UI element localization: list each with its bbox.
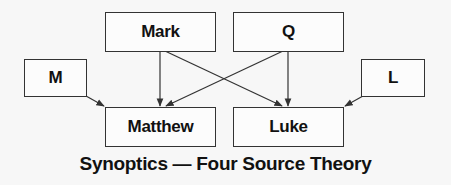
node-label: L <box>388 68 398 88</box>
node-m: M <box>24 59 87 97</box>
node-matthew: Matthew <box>105 107 216 147</box>
node-mark: Mark <box>105 12 216 52</box>
node-luke: Luke <box>233 107 344 147</box>
edge-m-matthew <box>86 96 104 106</box>
node-label: Q <box>282 22 295 42</box>
diagram-title: Synoptics — Four Source Theory <box>0 153 451 175</box>
node-q: Q <box>233 12 344 52</box>
node-label: Mark <box>141 22 180 42</box>
node-l: L <box>361 59 425 97</box>
edge-l-luke <box>345 96 363 106</box>
node-label: Matthew <box>128 117 194 137</box>
node-label: Luke <box>269 117 307 137</box>
node-label: M <box>49 68 63 88</box>
